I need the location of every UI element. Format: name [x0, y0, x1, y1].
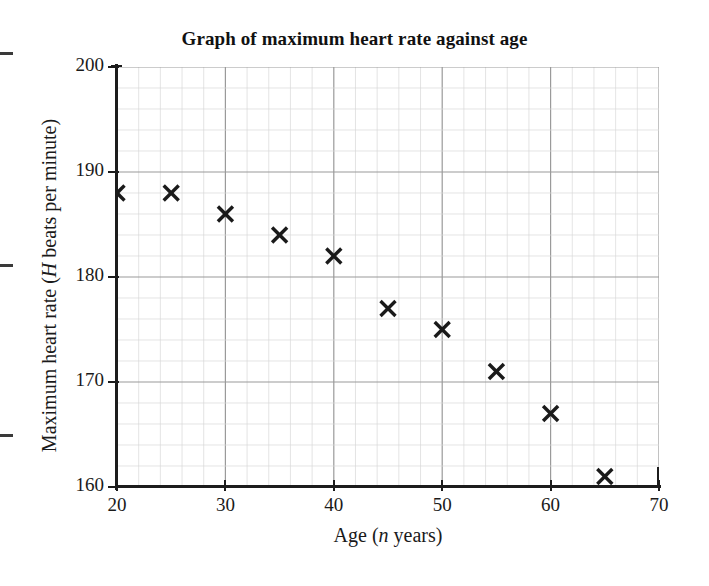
- data-point: [326, 249, 341, 264]
- y-axis-title-after: beats per minute): [38, 119, 60, 263]
- y-axis-tick: [108, 276, 119, 278]
- chart-figure: Graph of maximum heart rate against age …: [0, 0, 709, 586]
- x-axis-title: Age (n years): [117, 524, 659, 547]
- x-axis-title-after: years): [389, 524, 443, 546]
- x-axis-title-variable: n: [379, 524, 389, 546]
- data-point: [597, 469, 612, 484]
- data-point: [381, 301, 396, 316]
- x-axis-tick-label: 20: [87, 494, 147, 516]
- y-axis-tick: [108, 381, 119, 383]
- data-point: [435, 322, 450, 337]
- y-axis-title-variable: H: [38, 263, 60, 277]
- page-edge-mark: [0, 264, 13, 267]
- data-point: [218, 207, 233, 222]
- data-point: [164, 186, 179, 201]
- x-axis-title-before: Age (: [334, 524, 379, 546]
- data-points-layer: [117, 67, 659, 487]
- x-axis-tick-label: 60: [521, 494, 581, 516]
- x-axis-tick: [658, 480, 660, 491]
- data-point: [489, 364, 504, 379]
- x-axis-line: [115, 485, 661, 488]
- x-axis-tick: [333, 480, 335, 491]
- x-axis-tick-label: 30: [195, 494, 255, 516]
- page-edge-mark: [0, 434, 13, 437]
- x-axis-tick: [441, 480, 443, 491]
- plot-area: [117, 67, 659, 487]
- x-axis-tick: [550, 480, 552, 491]
- chart-title: Graph of maximum heart rate against age: [0, 28, 709, 50]
- x-axis-tick-label: 70: [629, 494, 689, 516]
- data-point: [117, 186, 125, 201]
- y-axis-tick: [108, 171, 119, 173]
- y-axis-tick: [108, 66, 119, 68]
- data-point: [543, 406, 558, 421]
- y-axis-title: Maximum heart rate (H beats per minute): [38, 71, 61, 501]
- x-axis-tick-label: 50: [412, 494, 472, 516]
- y-axis-title-before: Maximum heart rate (: [38, 277, 60, 452]
- x-axis-tick: [224, 480, 226, 491]
- page-edge-mark: [0, 52, 13, 55]
- x-axis-tick: [116, 480, 118, 491]
- data-point: [272, 228, 287, 243]
- x-axis-tick-label: 40: [304, 494, 364, 516]
